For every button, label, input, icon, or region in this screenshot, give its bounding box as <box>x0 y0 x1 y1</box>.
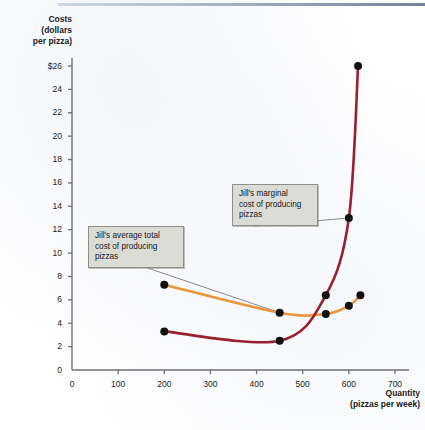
y-tick-label: 24 <box>28 84 62 94</box>
x-tick-label: 500 <box>286 379 320 389</box>
x-tick-label: 600 <box>332 379 366 389</box>
annotation-line: pizzas <box>239 210 312 221</box>
y-tick-label: 10 <box>28 248 62 258</box>
annotation-line: pizzas <box>95 252 178 263</box>
annotation-line: cost of producing <box>95 242 178 253</box>
data-point-marker <box>322 310 330 318</box>
data-point-marker <box>345 214 353 222</box>
x-tick-label: 200 <box>147 379 181 389</box>
annotation-mc: Jill's marginalcost of producingpizzas <box>232 184 318 226</box>
y-tick-label: $26 <box>28 61 62 71</box>
y-tick-label: 0 <box>28 365 62 375</box>
data-point-marker <box>276 309 284 317</box>
y-tick-label: 12 <box>28 224 62 234</box>
x-tick-label: 0 <box>55 379 89 389</box>
data-point-marker <box>160 281 168 289</box>
y-tick-label: 4 <box>28 318 62 328</box>
x-tick-label: 400 <box>240 379 274 389</box>
y-tick-label: 22 <box>28 107 62 117</box>
y-tick-label: 14 <box>28 201 62 211</box>
y-tick-label: 8 <box>28 271 62 281</box>
data-point-marker <box>354 62 362 70</box>
data-point-marker <box>160 327 168 335</box>
data-point-marker <box>345 302 353 310</box>
figure-canvas: Costs (dollars per pizza) Quantity (pizz… <box>0 0 425 430</box>
y-tick-label: 16 <box>28 177 62 187</box>
annotation-line: cost of producing <box>239 200 312 211</box>
annotation-line: Jill's marginal <box>239 189 312 200</box>
x-tick-label: 700 <box>378 379 412 389</box>
plot-area <box>0 0 425 430</box>
data-point-marker <box>322 291 330 299</box>
y-tick-label: 20 <box>28 131 62 141</box>
annotation-atc: Jill's average totalcost of producingpiz… <box>88 226 184 268</box>
y-tick-label: 18 <box>28 154 62 164</box>
data-point-marker <box>276 337 284 345</box>
y-tick-label: 2 <box>28 341 62 351</box>
x-tick-label: 300 <box>193 379 227 389</box>
annotation-line: Jill's average total <box>95 231 178 242</box>
y-tick-label: 6 <box>28 294 62 304</box>
x-tick-label: 100 <box>101 379 135 389</box>
data-point-marker <box>356 291 364 299</box>
